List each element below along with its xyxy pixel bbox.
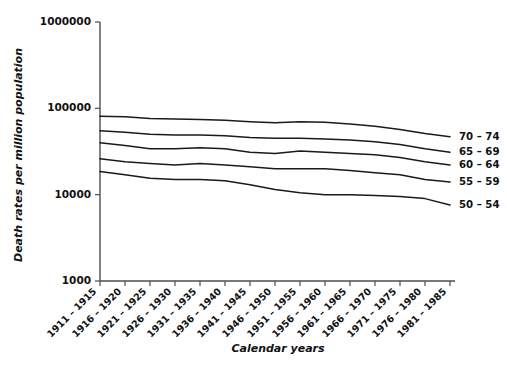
x-axis-tick-labels: 1911 – 19151916 – 19201921 – 19251926 – … [45, 285, 449, 339]
x-axis-title-text: Calendar years [231, 342, 325, 355]
y-axis-title-text: Death rates per million population [12, 48, 25, 262]
y-tick-label: 10000 [54, 188, 91, 200]
series-lines [100, 116, 450, 205]
series-end-labels: 70 – 7465 – 6960 – 6455 – 5950 – 54 [459, 131, 500, 210]
y-axis-ticks: 1000000100000100001000 [40, 15, 100, 286]
series-label: 70 – 74 [459, 131, 500, 142]
x-axis-title: Calendar years [231, 342, 325, 355]
x-axis-ticks [100, 281, 450, 286]
series-line [100, 116, 450, 136]
series-label: 50 – 54 [459, 199, 500, 210]
series-label: 55 – 59 [459, 176, 500, 187]
y-tick-label: 1000 [62, 274, 91, 286]
series-line [100, 143, 450, 165]
series-line [100, 172, 450, 205]
series-label: 60 – 64 [459, 159, 500, 170]
y-axis-title: Death rates per million population [12, 48, 25, 262]
line-chart: Death rates per million population 10000… [0, 0, 507, 367]
y-tick-label: 1000000 [40, 15, 91, 27]
chart-container: Death rates per million population 10000… [0, 0, 507, 367]
series-label: 65 – 69 [459, 146, 500, 157]
y-tick-label: 100000 [47, 101, 91, 113]
